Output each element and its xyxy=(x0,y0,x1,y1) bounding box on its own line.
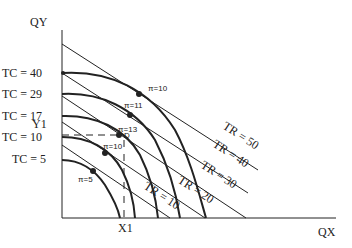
pi-label-10-low: π=10 xyxy=(103,142,123,151)
pi-label-10-top: π=10 xyxy=(148,84,168,93)
tc-label-5: TC = 5 xyxy=(12,152,46,166)
tr-line-30 xyxy=(62,96,246,218)
y-axis-label: QY xyxy=(30,15,48,29)
tangent-point-pi11 xyxy=(127,112,133,118)
x1-marker: X1 xyxy=(118,221,133,235)
tc40-axis-dot xyxy=(61,71,65,75)
diagram: QY QX Y1 X1 TC = 40 TC = 29 TC = 17 TC =… xyxy=(0,0,352,248)
tc-curve-5 xyxy=(62,160,120,218)
optimum-label-d: D xyxy=(124,131,130,140)
tangent-point-pi5 xyxy=(90,168,96,174)
tc-label-17: TC = 17 xyxy=(2,109,42,123)
tc-label-40: TC = 40 xyxy=(2,66,42,80)
pi-label-5: π=5 xyxy=(78,175,93,184)
tc-label-10: TC = 10 xyxy=(2,130,42,144)
tc-label-29: TC = 29 xyxy=(2,87,42,101)
pi-label-11: π=11 xyxy=(124,101,143,110)
x-axis-label: QX xyxy=(318,225,336,239)
tangent-point-pi10-top xyxy=(136,91,142,97)
